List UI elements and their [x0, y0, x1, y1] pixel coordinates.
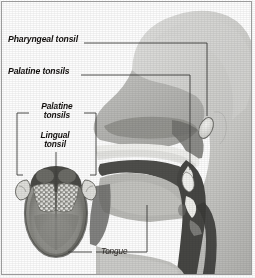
root-eminence-left: [36, 169, 54, 183]
root-eminence-right: [58, 169, 76, 183]
label-inset-palatine-tonsils: Palatine tonsils: [30, 102, 84, 121]
hyoid: [178, 204, 186, 216]
tonsils-figure: Pharyngeal tonsil Palatine tonsils Palat…: [0, 0, 255, 278]
label-pharyngeal-tonsil: Pharyngeal tonsil: [8, 35, 78, 45]
label-inset-lingual-tonsil: Lingual tonsil: [30, 131, 80, 150]
label-inset-lingual-line2: tonsil: [30, 140, 80, 149]
label-inset-palatine-line2: tonsils: [30, 111, 84, 120]
label-palatine-tonsils: Palatine tonsils: [8, 67, 69, 77]
label-tongue: Tongue: [101, 247, 127, 256]
tongue-dorsum-highlight: [38, 218, 74, 254]
